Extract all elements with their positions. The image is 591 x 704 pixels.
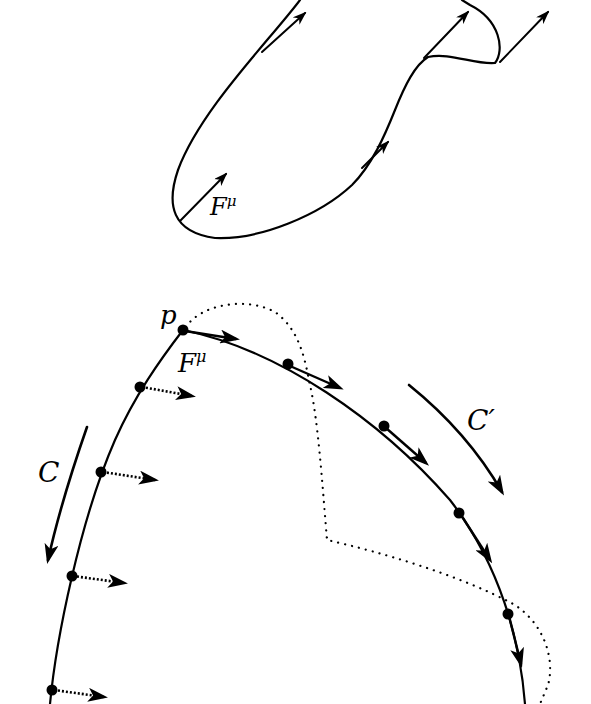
- dotted-vector-4: [54, 690, 104, 697]
- direction-arrow-c-prime: [409, 385, 502, 492]
- tangent-arrow-3: [386, 428, 426, 463]
- dotted-curve: [186, 304, 550, 704]
- point-c-prime-2: [379, 421, 390, 432]
- dotted-vector-1: [142, 387, 192, 396]
- vector-arrow-middle: [362, 142, 388, 168]
- point-c-3: [67, 571, 78, 582]
- diagram-canvas: Fμ p Fμ C: [0, 0, 591, 704]
- vector-label-bottom: Fμ: [177, 347, 206, 378]
- point-c-4: [47, 685, 58, 696]
- point-c-1: [135, 382, 146, 393]
- curve-c-prime: [183, 330, 525, 704]
- dotted-vector-3: [73, 576, 124, 583]
- point-c-prime-1: [283, 359, 294, 370]
- dotted-vector-2: [103, 472, 155, 480]
- point-p: [178, 325, 189, 336]
- vector-label-top: Fμ: [209, 192, 236, 221]
- tangent-arrow-5: [509, 616, 521, 664]
- point-label-p: p: [160, 300, 177, 330]
- point-c-2: [96, 467, 107, 478]
- curve-label-c: C: [38, 456, 59, 489]
- curve-label-c-prime: C′: [467, 404, 495, 437]
- vector-arrow-neck: [424, 12, 468, 58]
- point-c-prime-3: [454, 508, 465, 519]
- point-c-prime-4: [503, 609, 514, 620]
- bottom-panel: p Fμ C C′: [38, 300, 550, 704]
- vector-arrow-right: [500, 12, 548, 62]
- tangent-arrow-4: [461, 515, 490, 560]
- curve-c: [50, 330, 183, 704]
- top-panel: Fμ: [173, 0, 548, 238]
